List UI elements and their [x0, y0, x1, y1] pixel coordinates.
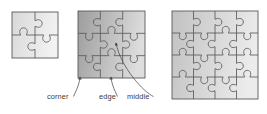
- annotation-edge: edge: [99, 77, 118, 101]
- annotation-corner: corner: [47, 77, 82, 101]
- diagram-canvas: corneredgemiddle: [0, 0, 267, 114]
- puzzle-3x3-body: [78, 11, 145, 78]
- jigsaw-diagram: corneredgemiddle: [0, 0, 267, 114]
- puzzle-4x4: [172, 11, 258, 99]
- puzzle-3x3: [78, 11, 145, 78]
- annotation-edge-label: edge: [99, 92, 116, 101]
- annotation-corner-leader-line: [74, 77, 81, 97]
- annotation-middle-label: middle: [127, 92, 149, 101]
- annotation-corner-label: corner: [47, 92, 69, 101]
- puzzles-layer: [12, 11, 258, 99]
- puzzle-2x2: [12, 12, 58, 58]
